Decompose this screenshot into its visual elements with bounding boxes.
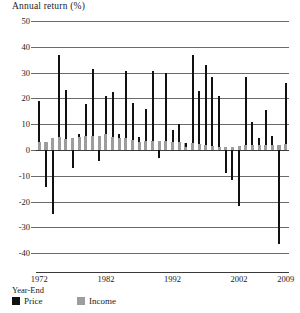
y-tick-label-10: 10 xyxy=(22,119,31,129)
bar-group-2007 xyxy=(269,21,276,266)
bar-group-1999 xyxy=(216,21,223,266)
income-bar-1978 xyxy=(78,137,81,150)
income-bar-1983 xyxy=(111,137,114,150)
bar-group-1975 xyxy=(56,21,63,266)
bar-group-2006 xyxy=(262,21,269,266)
bar-group-1988 xyxy=(143,21,150,266)
price-bar-2004 xyxy=(251,122,253,145)
price-bar-1997 xyxy=(205,65,207,145)
bar-group-1994 xyxy=(182,21,189,266)
price-bar-2006 xyxy=(265,110,267,145)
x-axis-line xyxy=(36,272,289,273)
price-bar-1994 xyxy=(185,143,187,147)
price-bar-1996 xyxy=(198,91,200,143)
income-bar-1979 xyxy=(84,136,87,150)
bar-group-2000 xyxy=(222,21,229,266)
income-swatch-icon xyxy=(77,297,85,305)
bar-group-1984 xyxy=(116,21,123,266)
price-bar-1973 xyxy=(45,150,47,187)
price-bar-2002 xyxy=(238,150,240,206)
x-axis-caption: Year-End xyxy=(12,285,44,295)
bar-group-1982 xyxy=(103,21,110,266)
price-bar-1986 xyxy=(132,103,134,141)
price-bar-1980 xyxy=(92,69,94,136)
price-bar-1995 xyxy=(192,55,194,143)
price-bar-2007 xyxy=(271,136,273,145)
price-bar-1992 xyxy=(172,130,174,142)
bar-group-1993 xyxy=(176,21,183,266)
x-tick-label-2002: 2002 xyxy=(231,274,248,284)
price-bar-1974 xyxy=(52,150,54,214)
bar-group-1977 xyxy=(69,21,76,266)
price-bar-1977 xyxy=(72,150,74,168)
income-bar-1981 xyxy=(98,136,101,150)
y-tick-label--10: -10 xyxy=(19,171,30,181)
bar-series-group xyxy=(36,21,289,266)
bar-group-1981 xyxy=(96,21,103,266)
price-bar-1976 xyxy=(65,90,67,139)
bar-group-1980 xyxy=(89,21,96,266)
income-bar-1986 xyxy=(131,140,134,150)
price-bar-1985 xyxy=(125,71,127,139)
price-bar-1982 xyxy=(105,96,107,134)
bar-group-1972 xyxy=(36,21,43,266)
price-bar-2001 xyxy=(231,150,233,180)
y-tick-label-30: 30 xyxy=(22,68,31,78)
bar-group-1973 xyxy=(43,21,50,266)
income-bar-1976 xyxy=(64,139,67,150)
income-bar-1973 xyxy=(44,142,47,150)
price-bar-1987 xyxy=(138,137,140,142)
bar-group-1996 xyxy=(196,21,203,266)
bar-group-1997 xyxy=(202,21,209,266)
x-tick-label-2009: 2009 xyxy=(277,274,294,284)
x-tick-label-1972: 1972 xyxy=(31,274,48,284)
bar-group-2001 xyxy=(229,21,236,266)
bar-group-1986 xyxy=(129,21,136,266)
price-bar-1990 xyxy=(158,150,160,158)
bar-group-2005 xyxy=(256,21,263,266)
bar-group-2003 xyxy=(242,21,249,266)
income-bar-1988 xyxy=(144,141,147,150)
price-bar-1999 xyxy=(218,96,220,146)
y-tick-label--30: -30 xyxy=(19,222,30,232)
bar-group-1995 xyxy=(189,21,196,266)
income-bar-1982 xyxy=(104,134,107,149)
income-bar-1995 xyxy=(191,143,194,150)
price-bar-1972 xyxy=(38,101,40,141)
bar-group-1991 xyxy=(163,21,170,266)
x-tick-label-1992: 1992 xyxy=(164,274,181,284)
price-bar-2000 xyxy=(225,150,227,173)
bar-group-2004 xyxy=(249,21,256,266)
x-tick-label-1982: 1982 xyxy=(97,274,114,284)
price-bar-1989 xyxy=(152,71,154,141)
price-bar-1988 xyxy=(145,109,147,141)
income-bar-1997 xyxy=(204,145,207,150)
bar-group-1990 xyxy=(156,21,163,266)
income-bar-1985 xyxy=(124,138,127,150)
bar-group-2009 xyxy=(282,21,289,266)
income-bar-1989 xyxy=(151,141,154,150)
bar-group-1992 xyxy=(169,21,176,266)
bar-group-2008 xyxy=(276,21,283,266)
price-bar-2009 xyxy=(285,83,287,144)
income-bar-2007 xyxy=(271,145,274,150)
income-bar-1991 xyxy=(164,141,167,150)
legend-label-income: Income xyxy=(89,296,116,306)
chart-title: Annual return (%) xyxy=(12,1,85,11)
y-tick-label--40: -40 xyxy=(19,248,30,258)
bar-group-1979 xyxy=(83,21,90,266)
price-bar-2008 xyxy=(278,150,280,244)
income-bar-1993 xyxy=(178,142,181,149)
price-bar-1979 xyxy=(85,104,87,136)
bar-group-1983 xyxy=(109,21,116,266)
bar-group-1978 xyxy=(76,21,83,266)
price-bar-1983 xyxy=(112,92,114,137)
bar-group-1998 xyxy=(209,21,216,266)
legend-item-income: Income xyxy=(77,296,116,306)
income-bar-1996 xyxy=(198,144,201,150)
price-swatch-icon xyxy=(12,297,20,305)
price-bar-1981 xyxy=(98,150,100,161)
bar-group-1976 xyxy=(63,21,70,266)
x-axis-labels: 19721982199220022009 xyxy=(0,274,300,286)
price-bar-2005 xyxy=(258,138,260,146)
